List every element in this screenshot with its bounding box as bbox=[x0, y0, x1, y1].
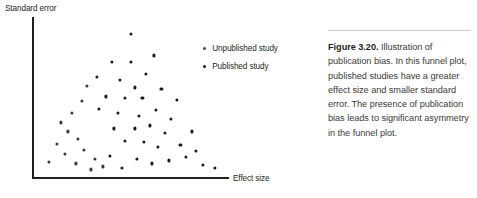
data-point bbox=[97, 107, 100, 110]
legend-item-published: Published study bbox=[203, 60, 278, 73]
data-point bbox=[167, 159, 170, 162]
data-point bbox=[86, 84, 89, 87]
figure-caption: Figure 3.20. Illustration of publication… bbox=[328, 30, 471, 140]
data-point bbox=[90, 168, 93, 171]
data-point bbox=[101, 165, 104, 168]
data-point bbox=[112, 127, 115, 130]
data-point bbox=[141, 96, 144, 99]
legend-label-unpublished: Unpublished study bbox=[212, 44, 278, 53]
funnel-plot: Standard error Effect size Unpublished s… bbox=[0, 0, 310, 198]
data-point bbox=[76, 137, 79, 140]
data-point bbox=[152, 54, 155, 57]
data-point bbox=[110, 60, 113, 63]
data-point bbox=[59, 121, 62, 124]
data-point bbox=[71, 112, 74, 115]
data-point bbox=[143, 140, 146, 143]
data-point bbox=[137, 115, 140, 118]
data-point bbox=[145, 72, 148, 75]
data-point bbox=[164, 131, 167, 134]
data-point bbox=[55, 142, 58, 145]
data-point bbox=[95, 75, 98, 78]
data-point bbox=[48, 160, 51, 163]
caption-text: Figure 3.20. Illustration of publication… bbox=[328, 40, 471, 140]
data-point bbox=[93, 157, 96, 160]
data-point bbox=[124, 96, 127, 99]
data-point bbox=[213, 166, 216, 169]
data-point bbox=[169, 118, 172, 121]
data-point bbox=[133, 86, 136, 89]
data-point bbox=[80, 99, 83, 102]
data-point bbox=[148, 124, 151, 127]
data-point bbox=[185, 156, 188, 159]
data-point bbox=[154, 109, 157, 112]
data-point bbox=[129, 33, 132, 36]
data-point bbox=[160, 87, 163, 90]
figure-container: Standard error Effect size Unpublished s… bbox=[0, 0, 477, 198]
data-point bbox=[116, 112, 119, 115]
data-point bbox=[118, 78, 121, 81]
data-point bbox=[202, 163, 205, 166]
legend-item-unpublished: Unpublished study bbox=[203, 42, 278, 55]
caption-divider bbox=[328, 30, 471, 31]
data-point bbox=[63, 153, 66, 156]
legend-label-published: Published study bbox=[212, 62, 268, 71]
caption-figure-number: Figure 3.20. bbox=[328, 42, 378, 52]
scatter-points-layer bbox=[0, 0, 310, 198]
data-point bbox=[156, 145, 159, 148]
data-point bbox=[150, 162, 153, 165]
data-point bbox=[133, 127, 136, 130]
data-point bbox=[109, 154, 112, 157]
caption-body: Illustration of publication bias. In thi… bbox=[328, 42, 469, 138]
data-point bbox=[194, 150, 197, 153]
data-point bbox=[179, 144, 182, 147]
data-point bbox=[135, 157, 138, 160]
data-point bbox=[190, 130, 193, 133]
dot-marker-icon bbox=[203, 47, 206, 50]
data-point bbox=[124, 139, 127, 142]
data-point bbox=[105, 95, 108, 98]
chart-legend: Unpublished study Published study bbox=[203, 42, 278, 78]
data-point bbox=[129, 60, 132, 63]
data-point bbox=[67, 130, 70, 133]
data-point bbox=[175, 98, 178, 101]
dot-marker-icon bbox=[203, 65, 206, 68]
data-point bbox=[120, 166, 123, 169]
data-point bbox=[82, 148, 85, 151]
data-point bbox=[74, 162, 77, 165]
